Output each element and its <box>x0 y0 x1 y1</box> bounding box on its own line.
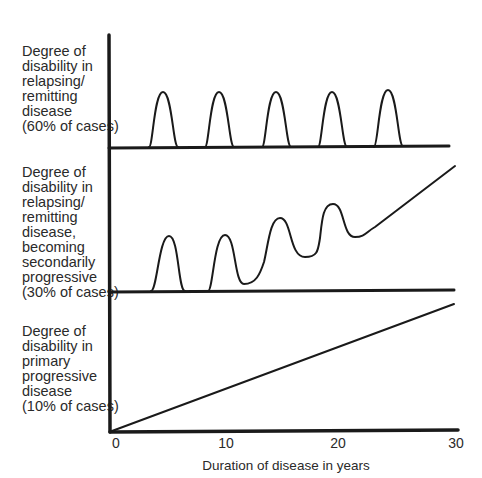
panel1-relapses <box>149 90 403 147</box>
x-tick-20: 20 <box>330 435 346 451</box>
chart-canvas <box>0 0 482 478</box>
y-axis <box>109 35 110 432</box>
panel3-line <box>112 304 454 431</box>
x-tick-0: 0 <box>112 435 120 451</box>
panel1-baseline <box>109 146 449 148</box>
x-tick-30: 30 <box>448 435 464 451</box>
x-tick-10: 10 <box>218 435 234 451</box>
panel2-curve <box>151 166 455 291</box>
x-axis <box>110 430 458 432</box>
panel2-baseline <box>109 290 454 292</box>
x-axis-title: Duration of disease in years <box>202 458 369 473</box>
